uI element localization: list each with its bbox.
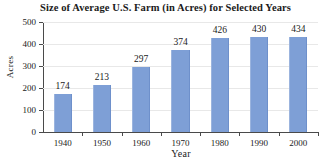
x-tick-label: 1960: [132, 138, 150, 148]
y-tick-mark: [39, 110, 43, 111]
x-tick-mark: [200, 132, 201, 136]
bar-value-label: 213: [95, 72, 109, 82]
x-axis-label: Year: [43, 148, 319, 159]
x-tick-label: 1970: [172, 138, 190, 148]
bar: [54, 94, 72, 132]
bar-value-label: 426: [213, 25, 227, 35]
y-tick-label: 200: [23, 83, 37, 93]
x-tick-mark: [122, 132, 123, 136]
y-tick-mark: [39, 132, 43, 133]
bar-value-label: 174: [56, 81, 70, 91]
bar: [289, 37, 307, 132]
x-axis-line: [43, 132, 319, 133]
y-tick-mark: [39, 44, 43, 45]
x-tick-mark: [82, 132, 83, 136]
chart-title: Size of Average U.S. Farm (in Acres) for…: [0, 2, 331, 13]
y-tick-label: 0: [32, 127, 37, 137]
bar: [171, 50, 189, 132]
x-tick-mark: [161, 132, 162, 136]
y-tick-label: 100: [23, 105, 37, 115]
bar: [93, 85, 111, 132]
bar-value-label: 434: [291, 24, 305, 34]
x-tick-mark: [239, 132, 240, 136]
x-tick-label: 2000: [289, 138, 307, 148]
bar: [132, 67, 150, 132]
gridline: [43, 22, 318, 23]
bar-value-label: 374: [173, 37, 187, 47]
x-tick-label: 1950: [93, 138, 111, 148]
x-tick-mark: [318, 132, 319, 136]
y-tick-mark: [39, 66, 43, 67]
bar: [211, 38, 229, 132]
y-tick-label: 300: [23, 61, 37, 71]
x-tick-mark: [279, 132, 280, 136]
x-tick-label: 1940: [54, 138, 72, 148]
plot-area: 0100200300400500 174213297374426430434 1…: [43, 22, 318, 132]
chart-figure: Size of Average U.S. Farm (in Acres) for…: [0, 0, 331, 168]
x-tick-label: 1990: [250, 138, 268, 148]
y-tick-label: 400: [23, 39, 37, 49]
x-tick-label: 1980: [211, 138, 229, 148]
bar-value-label: 297: [134, 54, 148, 64]
bar: [250, 37, 268, 132]
y-tick-mark: [39, 88, 43, 89]
y-tick-label: 500: [23, 17, 37, 27]
bar-value-label: 430: [252, 24, 266, 34]
y-axis-label: Acres: [5, 42, 15, 92]
y-tick-mark: [39, 22, 43, 23]
